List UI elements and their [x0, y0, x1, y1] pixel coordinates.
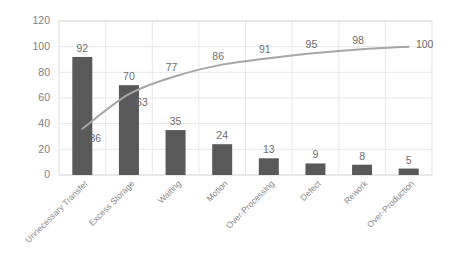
bar	[259, 158, 279, 175]
bar	[72, 57, 92, 175]
x-axis-category-label: Defect	[298, 178, 323, 203]
x-axis-category-label: Over-Production	[365, 178, 416, 229]
y-axis-tick-label: 40	[38, 117, 50, 129]
category-labels-group: Unnecessary TransferExcess StorageWaitin…	[23, 178, 416, 245]
cumulative-value-label: 98	[352, 34, 364, 46]
x-axis-category-label: Excess Storage	[87, 178, 137, 228]
bar-value-label: 5	[406, 154, 412, 166]
y-axis-tick-label: 120	[32, 14, 50, 26]
bar	[352, 165, 372, 175]
x-axis-category-label: Motion	[204, 178, 229, 203]
x-axis-category-label: Waiting	[156, 178, 183, 205]
y-axis-tick-label: 20	[38, 143, 50, 155]
chart-canvas: 120100806040200 9270352413985 3663778691…	[0, 0, 457, 275]
bar-value-label: 24	[216, 129, 228, 141]
bar-value-label: 8	[359, 150, 365, 162]
bar	[166, 130, 186, 175]
bar	[399, 169, 419, 175]
y-axis-tick-label: 60	[38, 91, 50, 103]
cumulative-value-label: 36	[89, 132, 101, 144]
x-axis-category-label: Rework	[342, 178, 370, 206]
y-axis-tick-label: 0	[44, 168, 50, 180]
y-axis-tick-label: 100	[32, 40, 50, 52]
cumulative-value-label: 86	[212, 50, 224, 62]
bar	[305, 163, 325, 175]
bar-value-label: 9	[313, 148, 319, 160]
cumulative-value-label: 77	[166, 61, 178, 73]
y-axis-tick-label: 80	[38, 66, 50, 78]
cumulative-value-label: 95	[306, 38, 318, 50]
bar-value-label: 13	[263, 143, 275, 155]
cumulative-value-label: 63	[136, 96, 148, 108]
pareto-chart: 120100806040200 9270352413985 3663778691…	[0, 0, 457, 275]
gridlines-group	[59, 21, 432, 175]
y-axis-tick-labels: 120100806040200	[32, 14, 50, 180]
bar-value-label: 70	[123, 70, 135, 82]
cumulative-value-label: 91	[259, 43, 271, 55]
x-axis-category-label: Over-Processing	[224, 178, 276, 230]
cumulative-value-label: 100	[416, 38, 434, 50]
x-axis-category-label: Unnecessary Transfer	[23, 178, 90, 245]
bar	[212, 144, 232, 175]
bar-value-label: 35	[170, 115, 182, 127]
bar-value-label: 92	[76, 42, 88, 54]
